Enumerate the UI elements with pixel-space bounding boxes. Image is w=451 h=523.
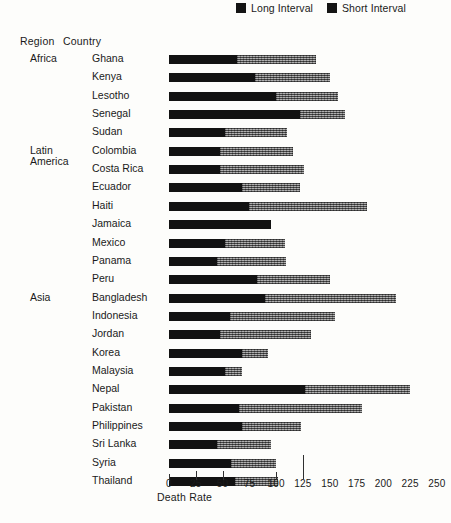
bar-segment-long-interval <box>169 220 271 229</box>
bar-bangladesh <box>169 294 396 303</box>
bar-segment-long-interval <box>169 367 225 376</box>
country-label: Sri Lanka <box>92 438 136 449</box>
country-label: Pakistan <box>92 402 132 413</box>
bar-segment-short-interval <box>305 385 410 394</box>
bar-segment-long-interval <box>169 147 220 156</box>
bar-segment-short-interval <box>225 367 242 376</box>
country-label: Haiti <box>92 200 113 211</box>
bar-costa-rica <box>169 165 304 174</box>
country-label: Jordan <box>92 328 124 339</box>
bar-kenya <box>169 73 330 82</box>
country-label: Senegal <box>92 108 131 119</box>
bar-segment-short-interval <box>242 422 301 431</box>
country-label: Lesotho <box>92 90 129 101</box>
country-label: Korea <box>92 347 120 358</box>
bar-segment-short-interval <box>237 55 316 64</box>
country-label: Bangladesh <box>92 292 147 303</box>
country-label: Colombia <box>92 145 136 156</box>
bar-indonesia <box>169 312 335 321</box>
region-label: LatinAmerica <box>30 145 69 167</box>
bar-syria <box>169 459 276 468</box>
country-label: Kenya <box>92 71 122 82</box>
bar-segment-long-interval <box>169 440 217 449</box>
bar-segment-short-interval <box>220 330 310 339</box>
bar-segment-short-interval <box>257 275 330 284</box>
bar-segment-short-interval <box>225 239 285 248</box>
bar-segment-long-interval <box>169 165 220 174</box>
bar-segment-short-interval <box>242 183 300 192</box>
country-label: Ecuador <box>92 181 131 192</box>
bar-jordan <box>169 330 311 339</box>
country-label: Thailand <box>92 475 132 486</box>
bar-segment-long-interval <box>169 349 242 358</box>
bar-ghana <box>169 55 316 64</box>
country-label: Panama <box>92 255 131 266</box>
region-label: Africa <box>30 53 57 64</box>
bar-philippines <box>169 422 301 431</box>
bar-segment-short-interval <box>230 312 335 321</box>
bar-segment-long-interval <box>169 422 242 431</box>
bar-segment-long-interval <box>169 257 217 266</box>
country-label: Ghana <box>92 53 124 64</box>
bar-colombia <box>169 147 293 156</box>
bar-korea <box>169 349 268 358</box>
country-label: Costa Rica <box>92 163 143 174</box>
bar-senegal <box>169 110 345 119</box>
bar-segment-long-interval <box>169 202 249 211</box>
bar-segment-long-interval <box>169 92 276 101</box>
bar-segment-long-interval <box>169 312 230 321</box>
country-label: Indonesia <box>92 310 138 321</box>
bar-segment-short-interval <box>249 202 367 211</box>
country-label: Philippines <box>92 420 143 431</box>
bar-malaysia <box>169 367 242 376</box>
bar-segment-short-interval <box>225 128 287 137</box>
bar-segment-long-interval <box>169 477 235 486</box>
bar-pakistan <box>169 404 362 413</box>
bar-segment-long-interval <box>169 459 231 468</box>
bar-segment-long-interval <box>169 55 237 64</box>
bar-thailand <box>169 477 278 486</box>
bar-panama <box>169 257 286 266</box>
bar-sri-lanka <box>169 440 271 449</box>
bar-sudan <box>169 128 287 137</box>
country-label: Peru <box>92 273 114 284</box>
bar-mexico <box>169 239 285 248</box>
bar-segment-short-interval <box>300 110 345 119</box>
bar-segment-long-interval <box>169 128 225 137</box>
bar-segment-short-interval <box>231 459 276 468</box>
bar-segment-long-interval <box>169 294 265 303</box>
bar-segment-long-interval <box>169 404 239 413</box>
country-label: Malaysia <box>92 365 133 376</box>
bar-segment-short-interval <box>265 294 396 303</box>
country-label: Mexico <box>92 237 125 248</box>
bar-segment-long-interval <box>169 73 255 82</box>
country-label: Sudan <box>92 126 122 137</box>
bar-segment-short-interval <box>235 477 278 486</box>
bar-haiti <box>169 202 367 211</box>
country-label: Jamaica <box>92 218 131 229</box>
bar-segment-long-interval <box>169 330 220 339</box>
bar-segment-long-interval <box>169 385 305 394</box>
bar-segment-long-interval <box>169 110 300 119</box>
bar-segment-short-interval <box>220 165 304 174</box>
country-label: Nepal <box>92 383 119 394</box>
bar-segment-short-interval <box>242 349 268 358</box>
bar-segment-long-interval <box>169 183 242 192</box>
bar-peru <box>169 275 330 284</box>
bar-segment-short-interval <box>239 404 362 413</box>
bar-lesotho <box>169 92 338 101</box>
bar-segment-short-interval <box>220 147 293 156</box>
bar-segment-long-interval <box>169 275 257 284</box>
bar-jamaica <box>169 220 271 229</box>
bar-nepal <box>169 385 410 394</box>
bar-segment-short-interval <box>255 73 330 82</box>
bar-chart-plot-area: AfricaGhanaKenyaLesothoSenegalSudanLatin… <box>0 0 451 523</box>
bar-ecuador <box>169 183 300 192</box>
region-label: Asia <box>30 292 50 303</box>
bar-segment-long-interval <box>169 239 225 248</box>
bar-segment-short-interval <box>217 440 271 449</box>
bar-segment-short-interval <box>217 257 286 266</box>
country-label: Syria <box>92 457 116 468</box>
bar-segment-short-interval <box>276 92 338 101</box>
